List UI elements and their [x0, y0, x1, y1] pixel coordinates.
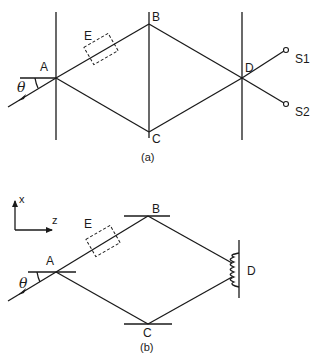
- label-s2: S2: [295, 105, 310, 119]
- incoming-beam-b: [8, 272, 56, 301]
- figure-a: A θ B C D E S1 S2 (a): [8, 10, 310, 163]
- detector-s1-icon: [284, 48, 289, 53]
- fringe-pattern: [230, 253, 239, 287]
- label-theta: θ: [19, 275, 28, 291]
- path-c-d: [148, 277, 232, 324]
- label-s1: S1: [295, 52, 310, 66]
- path-a-c: [56, 272, 148, 324]
- label-a: A: [46, 254, 54, 268]
- label-c: C: [143, 326, 152, 340]
- label-b: B: [152, 10, 160, 24]
- label-x-axis: x: [19, 193, 25, 205]
- path-a-b: [56, 216, 148, 272]
- label-a: A: [40, 60, 48, 74]
- label-theta: θ: [17, 79, 26, 95]
- label-e: E: [84, 217, 92, 231]
- incoming-beam-a: [8, 78, 56, 107]
- figure-b: x z A θ B C D E (b): [8, 193, 256, 353]
- path-b-d: [148, 216, 232, 263]
- path-c-d: [149, 78, 242, 132]
- label-b: B: [152, 202, 160, 216]
- path-a-b: [56, 24, 149, 78]
- path-b-d: [149, 24, 242, 78]
- label-z-axis: z: [52, 214, 58, 226]
- angle-arc-a: [35, 78, 38, 88]
- angle-arc-b: [37, 272, 40, 282]
- path-a-c: [56, 78, 149, 132]
- caption-a: (a): [141, 151, 154, 163]
- caption-b: (b): [140, 341, 153, 353]
- label-d: D: [247, 264, 256, 278]
- label-d: D: [245, 61, 254, 75]
- label-c: C: [152, 132, 161, 146]
- output-s2: [242, 78, 284, 103]
- interferometer-diagram: A θ B C D E S1 S2 (a) x z: [0, 0, 315, 362]
- detector-s2-icon: [284, 102, 289, 107]
- label-e: E: [84, 29, 92, 43]
